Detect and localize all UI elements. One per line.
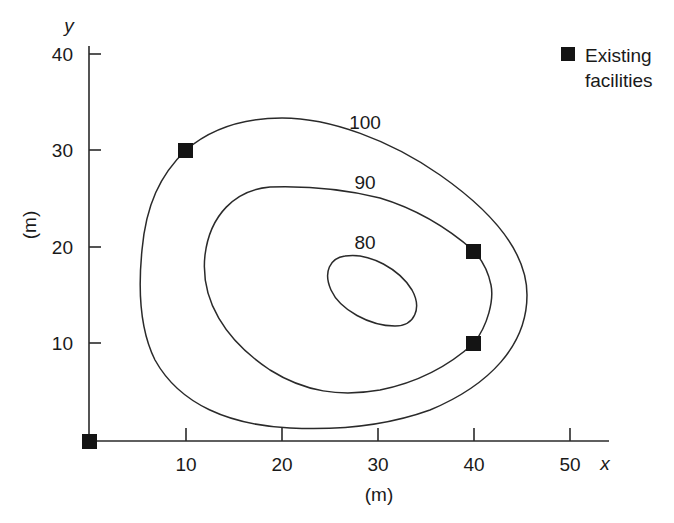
x-axis-unit: (m)	[365, 484, 393, 505]
legend-square-icon	[561, 47, 575, 61]
x-tick-label-20: 20	[271, 454, 292, 475]
y-axis-unit: (m)	[19, 211, 40, 239]
contour-100	[140, 118, 527, 429]
contour-label-100: 100	[349, 112, 381, 133]
existing-facilities	[82, 143, 481, 449]
contour-chart: 40 30 20 10 10 20 30 40 50 y x (m) (m) 1…	[0, 0, 674, 523]
x-tick-label-10: 10	[175, 454, 196, 475]
contour-label-80: 80	[354, 232, 375, 253]
y-tick-label-20: 20	[52, 237, 73, 258]
facility-marker-0-0	[82, 434, 97, 449]
x-tick-label-50: 50	[559, 454, 580, 475]
y-tick-label-10: 10	[52, 333, 73, 354]
contour-90	[204, 187, 491, 393]
x-tick-label-30: 30	[367, 454, 388, 475]
legend-label-line1: Existing	[585, 45, 652, 66]
contour-80	[328, 255, 417, 326]
y-tick-label-30: 30	[52, 140, 73, 161]
x-tick-label-40: 40	[463, 454, 484, 475]
contours: 100 90 80	[140, 112, 527, 429]
facility-marker-10-30	[178, 143, 193, 158]
y-axis-variable: y	[62, 15, 75, 36]
y-tick-label-40: 40	[52, 44, 73, 65]
x-axis-variable: x	[599, 453, 611, 474]
legend: Existing facilities	[561, 45, 653, 91]
facility-marker-40-10	[466, 336, 481, 351]
facility-marker-40-20	[466, 244, 481, 259]
contour-label-90: 90	[354, 172, 375, 193]
legend-label-line2: facilities	[585, 70, 653, 91]
axes: 40 30 20 10 10 20 30 40 50 y x (m) (m)	[19, 15, 611, 505]
